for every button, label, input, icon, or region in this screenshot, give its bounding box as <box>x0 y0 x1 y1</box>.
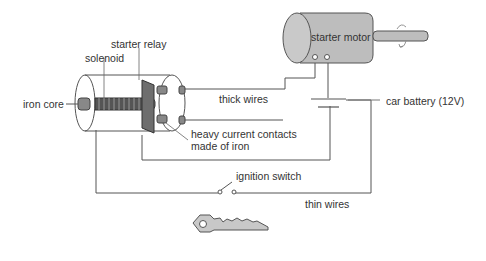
label-thin-wires: thin wires <box>305 198 349 210</box>
label-starter-motor: starter motor <box>311 31 371 43</box>
label-starter-relay: starter relay <box>111 38 166 50</box>
label-iron-core: iron core <box>23 98 64 110</box>
label-ignition-switch: ignition switch <box>236 170 301 182</box>
label-solenoid: solenoid <box>85 52 124 64</box>
car-battery-symbol <box>311 99 346 107</box>
label-thick-wires: thick wires <box>219 93 268 105</box>
ignition-key-icon <box>193 215 268 232</box>
heavy-current-contacts <box>157 86 185 124</box>
iron-core-rod <box>66 98 90 110</box>
label-heavy-contacts-line2: made of iron <box>191 140 249 152</box>
ignition-switch-symbol <box>218 182 236 194</box>
label-car-battery: car battery (12V) <box>386 95 464 107</box>
iron-plate <box>142 80 154 133</box>
label-heavy-contacts-line1: heavy current contacts <box>191 128 297 140</box>
